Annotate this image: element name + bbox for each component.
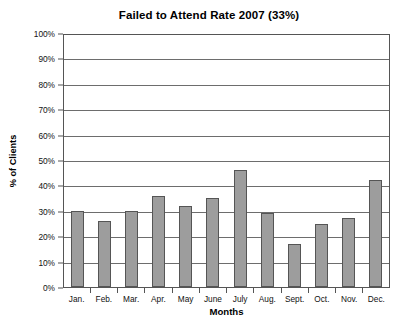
x-tick-label-dec: Dec.	[363, 294, 390, 304]
y-tick-label-40: 40%	[38, 181, 55, 191]
bar-slot-nov	[335, 34, 362, 287]
x-tick-mark-5	[199, 288, 200, 293]
x-tick-mark-2	[117, 288, 118, 293]
y-tick-label-10: 10%	[38, 258, 55, 268]
x-tick-label-oct: Oct.	[308, 294, 335, 304]
x-tick-label-feb: Feb.	[90, 294, 117, 304]
x-tick-mark-6	[226, 288, 227, 293]
x-tick-label-jan: Jan.	[63, 294, 90, 304]
y-tick-label-70: 70%	[38, 105, 55, 115]
bar-mar[interactable]	[125, 211, 138, 287]
x-tick-label-june: June	[199, 294, 226, 304]
bar-july[interactable]	[234, 170, 247, 287]
plot-area	[63, 34, 390, 288]
bar-slot-june	[199, 34, 226, 287]
bar-nov[interactable]	[342, 218, 355, 287]
y-tick-label-60: 60%	[38, 131, 55, 141]
bar-slot-sept	[281, 34, 308, 287]
bar-slot-july	[226, 34, 253, 287]
y-tick-label-90: 90%	[38, 54, 55, 64]
bar-slot-mar	[118, 34, 145, 287]
x-tick-label-may: May	[172, 294, 199, 304]
y-tick-label-80: 80%	[38, 80, 55, 90]
bars-layer	[64, 34, 389, 287]
bar-feb[interactable]	[98, 221, 111, 287]
bar-jan[interactable]	[71, 211, 84, 287]
bar-oct[interactable]	[315, 224, 328, 288]
y-tick-label-30: 30%	[38, 207, 55, 217]
bar-sept[interactable]	[288, 244, 301, 287]
x-tick-mark-8	[281, 288, 282, 293]
bar-slot-apr	[145, 34, 172, 287]
bar-slot-feb	[91, 34, 118, 287]
y-tick-label-20: 20%	[38, 232, 55, 242]
bar-slot-jan	[64, 34, 91, 287]
x-axis-title: Months	[63, 306, 390, 317]
chart-title: Failed to Attend Rate 2007 (33%)	[0, 9, 418, 21]
bar-chart: Failed to Attend Rate 2007 (33%) % of Cl…	[0, 0, 418, 325]
x-tick-label-aug: Aug.	[254, 294, 281, 304]
x-tick-mark-11	[362, 288, 363, 293]
bar-slot-may	[172, 34, 199, 287]
bar-june[interactable]	[206, 198, 219, 287]
x-tick-mark-4	[172, 288, 173, 293]
bar-apr[interactable]	[152, 196, 165, 287]
y-axis: 0%10%20%30%40%50%60%70%80%90%100%	[0, 34, 63, 288]
x-tick-label-apr: Apr.	[145, 294, 172, 304]
x-tick-label-sept: Sept.	[281, 294, 308, 304]
bar-slot-aug	[254, 34, 281, 287]
x-tick-mark-10	[335, 288, 336, 293]
x-tick-mark-7	[253, 288, 254, 293]
x-tick-mark-9	[308, 288, 309, 293]
y-tick-label-100: 100%	[34, 29, 55, 39]
y-tick-label-50: 50%	[38, 156, 55, 166]
x-tick-label-july: July	[227, 294, 254, 304]
x-tick-mark-3	[144, 288, 145, 293]
bar-aug[interactable]	[261, 213, 274, 287]
y-tick-label-0: 0%	[43, 283, 55, 293]
bar-slot-dec	[362, 34, 389, 287]
x-tick-label-nov: Nov.	[336, 294, 363, 304]
bar-dec[interactable]	[369, 180, 382, 287]
bar-slot-oct	[308, 34, 335, 287]
x-tick-label-mar: Mar.	[118, 294, 145, 304]
bar-may[interactable]	[179, 206, 192, 287]
x-tick-mark-1	[90, 288, 91, 293]
